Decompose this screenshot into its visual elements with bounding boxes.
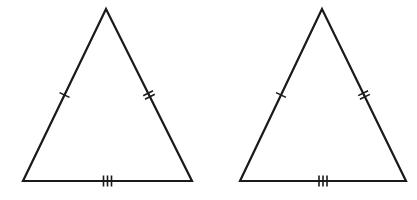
- triangle-right: [240, 9, 406, 187]
- triangle-outline: [23, 9, 192, 181]
- diagram-canvas: [0, 0, 417, 200]
- triangle-left: [23, 9, 192, 187]
- triangle-outline: [240, 9, 406, 181]
